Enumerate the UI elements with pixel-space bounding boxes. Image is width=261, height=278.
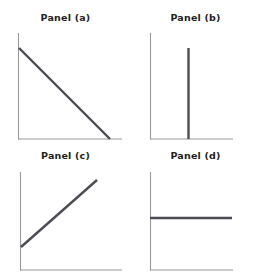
panel-d-plot xyxy=(130,150,261,278)
panel-a: Panel (a) xyxy=(0,8,131,148)
panel-c-data-line xyxy=(21,180,97,247)
panel-b: Panel (b) xyxy=(130,8,261,148)
panel-c-plot xyxy=(0,150,131,278)
panel-a-data-line xyxy=(19,48,110,139)
panel-c: Panel (c) xyxy=(0,150,131,278)
panel-d: Panel (d) xyxy=(130,150,261,278)
panel-a-plot xyxy=(0,8,131,148)
figure-canvas: Panel (a) Panel (b) Panel (c) Panel (d) xyxy=(0,0,261,278)
panel-b-plot xyxy=(130,8,261,148)
